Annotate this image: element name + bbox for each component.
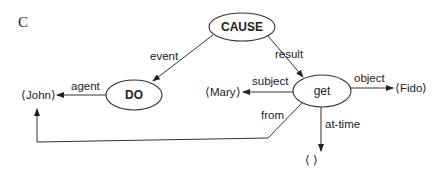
node-label-get: get (314, 84, 331, 98)
edge-at-time: at-time (321, 107, 360, 151)
edge-result: result (268, 36, 304, 77)
panel-label: C (18, 14, 28, 30)
node-get: get (293, 75, 351, 107)
edge-label-agent: agent (71, 80, 101, 92)
node-do: DO (106, 80, 162, 110)
semantic-network-diagram: C event result agent subject object from (0, 0, 446, 177)
edge-label-result: result (275, 48, 304, 60)
edge-label-from: from (261, 109, 284, 121)
edge-from: from (37, 103, 302, 142)
edge-label-event: event (150, 50, 179, 62)
value-mary: ⟨Mary⟩ (205, 86, 241, 98)
edge-object: object (351, 72, 393, 88)
edge-subject: subject (243, 75, 293, 92)
node-cause: CAUSE (209, 13, 275, 41)
value-time-empty: ⟨ ⟩ (305, 154, 318, 166)
node-label-do: DO (125, 88, 143, 102)
edge-label-at-time: at-time (325, 118, 360, 130)
value-fido: ⟨Fido⟩ (395, 82, 427, 94)
edge-event: event (150, 35, 213, 81)
node-label-cause: CAUSE (221, 20, 263, 34)
edge-agent: agent (57, 80, 106, 95)
edge-label-subject: subject (252, 75, 289, 87)
value-john: ⟨John⟩ (21, 89, 56, 101)
edge-label-object: object (354, 72, 385, 84)
